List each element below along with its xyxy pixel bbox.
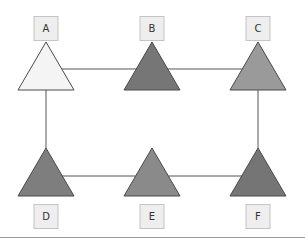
node-label-b: B <box>140 17 164 41</box>
node-label-c-text: C <box>255 23 262 34</box>
node-label-f-text: F <box>255 211 261 222</box>
node-label-d: D <box>34 205 58 229</box>
node-label-e-text: E <box>149 211 155 222</box>
node-a-triangle-icon <box>18 42 74 90</box>
node-label-f: F <box>246 205 270 229</box>
node-label-a-text: A <box>43 23 50 34</box>
node-f-triangle-icon <box>230 148 286 196</box>
node-label-a: A <box>34 17 58 41</box>
node-c-triangle-icon <box>230 42 286 90</box>
node-label-e: E <box>140 205 164 229</box>
node-e-triangle-icon <box>124 148 180 196</box>
node-label-d-text: D <box>42 211 50 222</box>
network-diagram: A B C D E F <box>0 0 305 240</box>
node-b-triangle-icon <box>124 42 180 90</box>
node-label-c: C <box>246 17 270 41</box>
node-d-triangle-icon <box>18 148 74 196</box>
node-label-b-text: B <box>149 23 156 34</box>
